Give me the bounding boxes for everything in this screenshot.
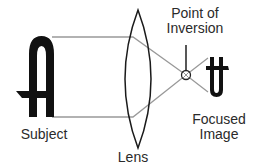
focused-image-glyph	[206, 57, 229, 97]
focused-image-label: Focused Image	[187, 112, 251, 142]
subject-label: Subject	[14, 127, 74, 142]
inversion-label: Point of Inversion	[165, 6, 225, 36]
lens-label: Lens	[113, 150, 153, 165]
inversion-label-line1: Point of	[165, 6, 225, 21]
lens	[125, 10, 151, 148]
inversion-label-line2: Inversion	[165, 21, 225, 36]
subject-glyph	[16, 36, 54, 117]
focused-image-label-line1: Focused	[187, 112, 251, 127]
top-ray	[52, 37, 208, 75]
inversion-point-icon	[182, 71, 191, 80]
bottom-ray	[52, 75, 208, 117]
focused-image-label-line2: Image	[187, 127, 251, 142]
